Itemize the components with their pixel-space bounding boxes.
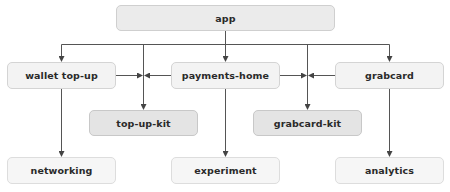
node-analytics[interactable]: analytics <box>335 157 444 184</box>
node-label: wallet top-up <box>25 70 98 81</box>
dependency-diagram: app wallet top-up payments-home grabcard… <box>0 0 450 192</box>
node-wallet-top-up[interactable]: wallet top-up <box>7 62 116 89</box>
node-grabcard-kit[interactable]: grabcard-kit <box>253 110 362 136</box>
node-label: analytics <box>365 165 414 176</box>
node-experiment[interactable]: experiment <box>171 157 280 184</box>
node-label: grabcard <box>365 70 414 81</box>
node-grabcard[interactable]: grabcard <box>335 62 444 89</box>
node-networking[interactable]: networking <box>7 157 116 184</box>
node-app[interactable]: app <box>116 5 335 31</box>
node-label: networking <box>31 165 93 176</box>
node-label: payments-home <box>182 70 269 81</box>
node-top-up-kit[interactable]: top-up-kit <box>89 110 198 136</box>
node-label: experiment <box>194 165 256 176</box>
node-payments-home[interactable]: payments-home <box>171 62 280 89</box>
node-label: top-up-kit <box>116 118 170 129</box>
node-label: app <box>215 13 235 24</box>
node-label: grabcard-kit <box>274 118 341 129</box>
